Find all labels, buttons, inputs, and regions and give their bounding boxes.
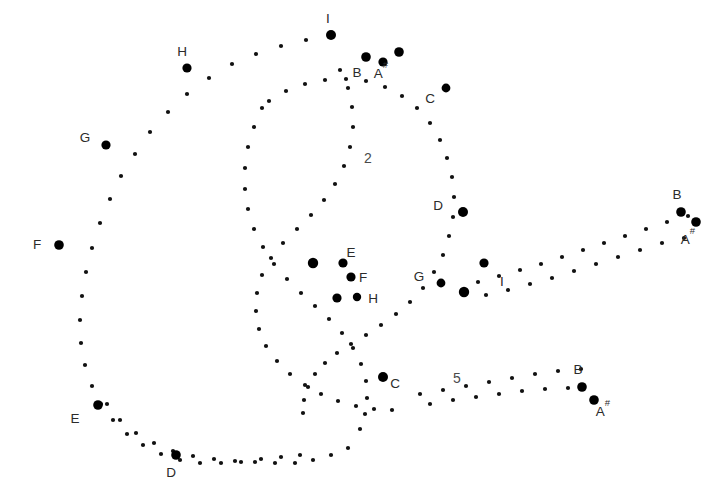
data-dot [252, 227, 256, 231]
data-dot [566, 386, 570, 390]
emphasized-dot-p-G-outer [101, 140, 110, 149]
emphasized-dot-p-H-mid [332, 293, 341, 302]
data-dot [243, 187, 247, 191]
data-dot [111, 418, 115, 422]
data-dot [84, 270, 88, 274]
data-dot [394, 312, 398, 316]
point-label-p-D-outer: D [166, 465, 176, 480]
data-dot [301, 411, 305, 415]
data-dot [602, 241, 606, 245]
data-dot [421, 286, 425, 290]
data-dot [346, 446, 350, 450]
data-dot [269, 256, 273, 260]
data-dot [572, 269, 576, 273]
data-dot [239, 460, 243, 464]
spiral-diagram-canvas: IHGFEDBA#CDEFHGICBA#BA# 25 [0, 0, 719, 497]
data-dot [539, 262, 543, 266]
emphasized-dot-p-E-mid [308, 258, 318, 268]
data-dot [390, 408, 394, 412]
data-dot [246, 207, 250, 211]
emphasized-dot-p-C-upper [442, 84, 451, 93]
data-dot [616, 255, 620, 259]
data-dot [309, 213, 313, 217]
data-dot [302, 398, 306, 402]
data-dot [660, 241, 664, 245]
data-dot [445, 156, 449, 160]
data-dot [533, 372, 537, 376]
data-dot [281, 241, 285, 245]
data-dot [372, 407, 376, 411]
data-dot [379, 323, 383, 327]
data-dot [279, 44, 283, 48]
data-dot [441, 388, 445, 392]
data-dot [351, 125, 355, 129]
data-dot [418, 392, 422, 396]
emphasized-dot-p-D-outer [171, 450, 181, 460]
emphasized-dot-p-F-mid [346, 272, 355, 281]
data-dot [638, 248, 642, 252]
point-label-p-F-outer: F [33, 237, 41, 252]
data-dot [365, 396, 369, 400]
data-dot [333, 182, 337, 186]
data-dot [351, 346, 355, 350]
data-dot [257, 327, 261, 331]
spiral-diagram-figure: IHGFEDBA#CDEFHGICBA#BA# 25 [0, 0, 719, 497]
data-dot [451, 215, 455, 219]
data-dot [528, 282, 532, 286]
data-dot [207, 76, 211, 80]
data-dot [364, 79, 368, 83]
data-dot [346, 86, 350, 90]
data-dot [428, 402, 432, 406]
data-dot [383, 85, 387, 89]
data-dot [252, 125, 256, 129]
data-dot [311, 458, 315, 462]
point-label-p-B-right: B [672, 187, 681, 202]
data-dot [90, 246, 94, 250]
emphasized-dot-p-E-outer [93, 400, 103, 410]
data-dot [358, 427, 362, 431]
data-dot [518, 268, 522, 272]
data-dot [295, 227, 299, 231]
point-label-p-C-lower: C [390, 376, 400, 391]
data-dot [556, 369, 560, 373]
data-dot [260, 106, 264, 110]
emphasized-dot-p-I-top [326, 30, 336, 40]
data-dot [108, 197, 112, 201]
data-dot [665, 220, 669, 224]
data-dot [476, 280, 480, 284]
data-dot [415, 106, 419, 110]
emphasized-dot-p-B-top [361, 52, 371, 62]
data-dot [279, 455, 283, 459]
data-dot [260, 273, 264, 277]
data-dot [336, 399, 340, 403]
data-dot [329, 453, 333, 457]
data-dot [125, 432, 129, 436]
data-dot [185, 92, 189, 96]
data-dot [520, 389, 524, 393]
data-dot [134, 431, 138, 435]
data-dot [303, 383, 307, 387]
data-dot [543, 387, 547, 391]
data-dot [233, 459, 237, 463]
data-dot [304, 38, 308, 42]
data-dot [484, 293, 488, 297]
data-dot [364, 379, 368, 383]
data-dot [438, 138, 442, 142]
data-dot [550, 276, 554, 280]
data-dot [79, 341, 83, 345]
point-label-p-H-mid: H [368, 291, 378, 306]
data-dot [98, 221, 102, 225]
data-dot [78, 318, 82, 322]
emphasized-dot-p-C-lower [378, 372, 388, 382]
data-dot [560, 255, 564, 259]
data-dot [255, 291, 259, 295]
data-dot [254, 52, 258, 56]
data-dot [451, 398, 455, 402]
data-dot [90, 384, 94, 388]
point-label-p-B-lowright: B [573, 362, 582, 377]
data-dot [285, 277, 289, 281]
point-label-p-B-top: B [352, 65, 361, 80]
data-dot [191, 454, 195, 458]
data-dot [259, 457, 263, 461]
data-dot [313, 304, 317, 308]
